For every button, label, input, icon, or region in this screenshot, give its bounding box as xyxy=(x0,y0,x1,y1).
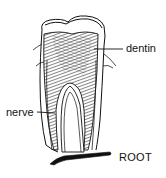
pulp-canal xyxy=(61,86,84,152)
root-label: ROOT xyxy=(119,152,152,163)
jaw-base xyxy=(50,152,111,165)
dentin-label: dentin xyxy=(126,43,156,54)
nerve-label: nerve xyxy=(6,107,34,118)
